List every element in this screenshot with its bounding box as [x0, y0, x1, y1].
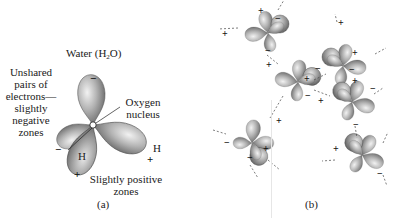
atom-h-right: H	[153, 142, 161, 154]
svg-text:−: −	[305, 90, 311, 101]
panel-divider	[271, 100, 272, 218]
svg-text:−: −	[90, 72, 96, 84]
water-network-b: + − + − + + + − − + − + + − − + − − + + …	[213, 0, 392, 186]
svg-text:+: +	[304, 73, 310, 84]
svg-text:+: +	[338, 17, 344, 28]
caption-b: (b)	[305, 198, 318, 210]
svg-text:+: +	[74, 168, 80, 180]
label-positive-zones: Slightly positive zones	[86, 173, 166, 197]
svg-text:−: −	[353, 119, 359, 130]
svg-text:−: −	[377, 168, 383, 179]
svg-text:−: −	[247, 152, 253, 163]
svg-text:−: −	[349, 64, 355, 75]
svg-text:+: +	[333, 143, 339, 154]
svg-text:+: +	[266, 59, 272, 70]
water-molecule-a	[53, 74, 151, 179]
oxygen-nucleus	[90, 122, 96, 128]
svg-text:+: +	[222, 28, 228, 39]
svg-text:−: −	[224, 137, 230, 148]
atom-h-left: H	[78, 150, 86, 162]
svg-text:+: +	[147, 153, 153, 165]
svg-text:+: +	[318, 95, 324, 106]
svg-text:−: −	[55, 143, 61, 155]
svg-text:+: +	[263, 143, 269, 154]
svg-text:−: −	[315, 63, 321, 74]
svg-text:+: +	[352, 47, 358, 58]
svg-text:+: +	[352, 75, 358, 86]
svg-text:−: −	[370, 83, 376, 94]
label-oxygen-nucleus: Oxygen nucleus	[118, 96, 168, 120]
svg-text:+: +	[258, 5, 264, 16]
caption-a: (a)	[97, 198, 109, 210]
label-unshared-electrons: Unshared pairs of electrons— slightly ne…	[2, 66, 60, 138]
svg-text:−: −	[265, 45, 271, 56]
svg-text:+: +	[276, 115, 282, 126]
title-water: Water (H2O)	[66, 47, 121, 63]
svg-text:−: −	[275, 13, 281, 24]
